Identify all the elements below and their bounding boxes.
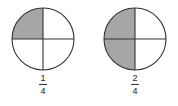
figure-one-fourth: 1 4 — [0, 0, 89, 106]
denominator: 4 — [40, 86, 45, 96]
fraction-label-two-fourths: 2 4 — [125, 73, 145, 96]
fraction-label-one-fourth: 1 4 — [33, 73, 53, 96]
fraction-bar — [131, 84, 139, 85]
fraction-bar — [39, 84, 47, 85]
fraction-circle-one-fourth — [0, 0, 89, 75]
fraction-circle-two-fourths — [89, 0, 178, 75]
numerator: 2 — [132, 73, 137, 83]
numerator: 1 — [40, 73, 45, 83]
figure-two-fourths: 2 4 — [89, 0, 178, 106]
denominator: 4 — [132, 86, 137, 96]
